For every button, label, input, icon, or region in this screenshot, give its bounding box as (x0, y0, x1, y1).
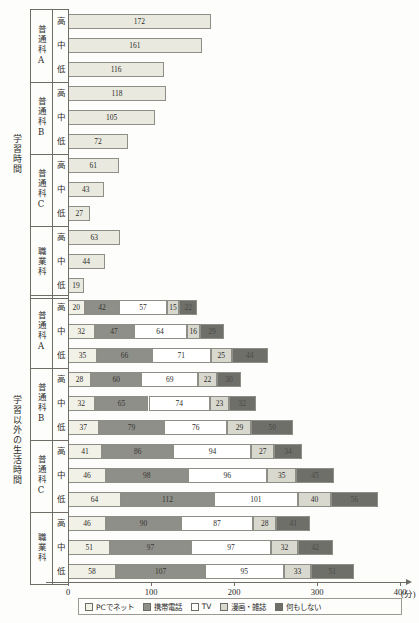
bar-segment: 22 (198, 372, 216, 387)
bar-value-label: 41 (81, 447, 89, 456)
bar-value-label: 47 (110, 327, 118, 336)
bar-value-label: 44 (83, 257, 91, 266)
bar-segment: 27 (68, 206, 90, 221)
bar-segment: 56 (331, 492, 377, 507)
bar-value-label: 23 (216, 399, 224, 408)
section-top-rule (30, 9, 68, 10)
bar-segment: 86 (102, 444, 173, 459)
bar-row: 72 (68, 134, 128, 149)
bar-segment: 64 (68, 492, 121, 507)
bar-row: 116 (68, 62, 164, 77)
bar-value-label: 58 (88, 567, 96, 576)
bar-segment: 51 (311, 564, 353, 579)
bar-value-label: 46 (83, 471, 91, 480)
bar-segment: 112 (121, 492, 214, 507)
bar-value-label: 97 (227, 543, 235, 552)
bar-segment: 107 (116, 564, 205, 579)
bar-segment: 40 (298, 492, 331, 507)
bar-value-label: 15 (169, 303, 177, 312)
bar-value-label: 118 (111, 89, 122, 98)
level-label-高: 高 (52, 516, 68, 531)
bar-segment: 45 (296, 468, 333, 483)
bar-value-label: 27 (75, 209, 83, 218)
bar-row: 2042571522 (68, 300, 197, 315)
bar-segment: 116 (68, 62, 164, 77)
bar-segment: 27 (251, 444, 273, 459)
bar-row: 105 (68, 110, 155, 125)
bar-row: 44 (68, 254, 105, 269)
bar-value-label: 107 (155, 567, 166, 576)
bar-value-label: 64 (91, 495, 99, 504)
bar-value-label: 98 (143, 471, 151, 480)
bar-segment: 19 (68, 278, 84, 293)
bar-value-label: 32 (78, 327, 86, 336)
bar-segment: 96 (188, 468, 268, 483)
group-label: 職業科 (30, 511, 52, 584)
bar-value-label: 35 (278, 471, 286, 480)
legend-label-none: 何もしない (286, 601, 321, 612)
chart-legend: PCでネット携帯電話TV漫画・雑誌何もしない (78, 598, 402, 615)
bar-segment: 22 (179, 300, 197, 315)
level-label-低: 低 (52, 134, 68, 149)
group-label: 普通科C (30, 153, 52, 226)
bar-row: 172 (68, 14, 211, 29)
level-label-高: 高 (52, 158, 68, 173)
x-axis (46, 582, 408, 583)
bar-segment: 98 (106, 468, 187, 483)
bar-segment: 43 (68, 182, 104, 197)
bar-segment: 97 (191, 540, 272, 555)
bar-value-label: 69 (166, 375, 174, 384)
x-tick-label: 0 (48, 587, 88, 597)
legend-label-net: PCでネット (96, 601, 134, 612)
bar-row: 3566712544 (68, 348, 268, 363)
group-label: 普通科B (30, 81, 52, 154)
level-label-中: 中 (52, 468, 68, 483)
bar-segment: 23 (210, 396, 229, 411)
bar-segment: 47 (95, 324, 134, 339)
bar-value-label: 35 (79, 351, 87, 360)
bar-segment: 15 (167, 300, 179, 315)
bar-value-label: 96 (224, 471, 232, 480)
bar-value-label: 32 (281, 543, 289, 552)
bar-value-label: 79 (128, 423, 136, 432)
bar-value-label: 116 (111, 65, 122, 74)
level-label-低: 低 (52, 348, 68, 363)
section-column-rule (30, 9, 31, 298)
level-label-中: 中 (52, 110, 68, 125)
bar-segment: 42 (298, 540, 333, 555)
bar-segment: 28 (253, 516, 276, 531)
x-tick-label: 300 (297, 587, 337, 597)
bar-value-label: 51 (329, 567, 337, 576)
legend-item-manga: 漫画・雑誌 (220, 601, 266, 612)
level-label-低: 低 (52, 62, 68, 77)
level-label-低: 低 (52, 278, 68, 293)
level-label-高: 高 (52, 300, 68, 315)
level-label-中: 中 (52, 254, 68, 269)
bar-value-label: 66 (121, 351, 129, 360)
bar-segment: 63 (68, 230, 120, 245)
section-top-rule (30, 295, 68, 296)
bar-row: 118 (68, 86, 166, 101)
bar-segment: 30 (217, 372, 242, 387)
bar-value-label: 19 (72, 281, 80, 290)
section-bottom-rule (30, 584, 68, 585)
bar-segment: 44 (232, 348, 269, 363)
legend-swatch-manga (220, 603, 228, 611)
bar-segment: 16 (187, 324, 200, 339)
bar-value-label: 172 (134, 17, 145, 26)
bar-value-label: 57 (139, 303, 147, 312)
bar-segment: 87 (181, 516, 253, 531)
bar-row: 3779762950 (68, 420, 293, 435)
x-tick (234, 582, 235, 586)
bar-value-label: 44 (246, 351, 254, 360)
x-tick (151, 582, 152, 586)
section-label: 学習以外の生活時間 (6, 295, 30, 584)
bar-segment: 64 (134, 324, 187, 339)
legend-item-net: PCでネット (85, 601, 134, 612)
x-tick-label: 200 (214, 587, 254, 597)
bar-value-label: 112 (162, 495, 173, 504)
bar-segment: 74 (149, 396, 210, 411)
legend-label-manga: 漫画・雑誌 (231, 601, 266, 612)
bar-segment: 35 (267, 468, 296, 483)
bar-value-label: 32 (78, 399, 86, 408)
